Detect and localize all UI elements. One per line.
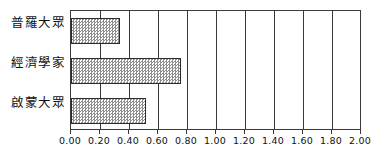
bar-chart: 普羅大眾 經濟學家 啟蒙大眾 — [0, 0, 383, 155]
bar-2 — [71, 98, 146, 124]
xtick-7 — [273, 130, 274, 134]
plot-area — [70, 10, 361, 130]
xtick-6 — [244, 130, 245, 134]
xtick-label-7: 1.40 — [262, 135, 284, 146]
category-label-1: 經濟學家 — [11, 50, 65, 76]
xtick-label-2: 0.40 — [117, 135, 139, 146]
xtick-label-4: 0.80 — [175, 135, 197, 146]
xtick-label-5: 1.00 — [204, 135, 226, 146]
xtick-label-8: 1.60 — [291, 135, 313, 146]
xtick-8 — [302, 130, 303, 134]
xtick-label-6: 1.20 — [233, 135, 255, 146]
xtick-5 — [215, 130, 216, 134]
xtick-4 — [186, 130, 187, 134]
category-axis-labels: 普羅大眾 經濟學家 啟蒙大眾 — [0, 10, 68, 130]
xtick-3 — [157, 130, 158, 134]
bars — [71, 11, 360, 129]
xtick-label-0: 0.00 — [59, 135, 81, 146]
xtick-label-9: 1.80 — [320, 135, 342, 146]
xtick-0 — [70, 130, 71, 134]
xtick-label-1: 0.20 — [88, 135, 110, 146]
xtick-10 — [360, 130, 361, 134]
xtick-2 — [128, 130, 129, 134]
bar-0 — [71, 18, 120, 44]
xtick-1 — [99, 130, 100, 134]
category-label-2: 啟蒙大眾 — [11, 90, 65, 116]
xtick-label-10: 2.00 — [349, 135, 371, 146]
bar-1 — [71, 58, 181, 84]
xtick-label-3: 0.60 — [146, 135, 168, 146]
category-label-0: 普羅大眾 — [11, 10, 65, 36]
xtick-9 — [331, 130, 332, 134]
